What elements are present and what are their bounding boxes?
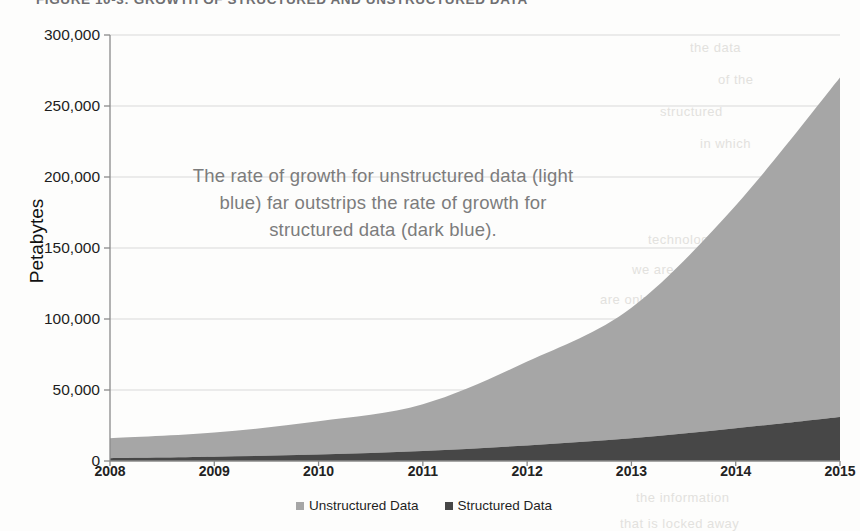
legend-label: Unstructured Data: [309, 498, 419, 513]
x-axis-tick-label: 2012: [492, 463, 562, 479]
chart-legend: Unstructured DataStructured Data: [0, 498, 848, 513]
chart-annotation: The rate of growth for unstructured data…: [188, 163, 578, 243]
legend-swatch-icon: [296, 502, 304, 510]
x-axis-tick-label: 2013: [596, 463, 666, 479]
area-series-unstructured-data: [110, 78, 840, 459]
legend-item[interactable]: Structured Data: [445, 498, 553, 513]
x-axis-tick-label: 2015: [805, 463, 860, 479]
x-axis-tick-label: 2010: [284, 463, 354, 479]
x-axis-tick-label: 2009: [179, 463, 249, 479]
legend-swatch-icon: [445, 502, 453, 510]
x-axis-tick-label: 2011: [388, 463, 458, 479]
x-axis-tick-label: 2014: [701, 463, 771, 479]
x-axis-tick-label: 2008: [75, 463, 145, 479]
legend-item[interactable]: Unstructured Data: [296, 498, 419, 513]
legend-label: Structured Data: [458, 498, 553, 513]
